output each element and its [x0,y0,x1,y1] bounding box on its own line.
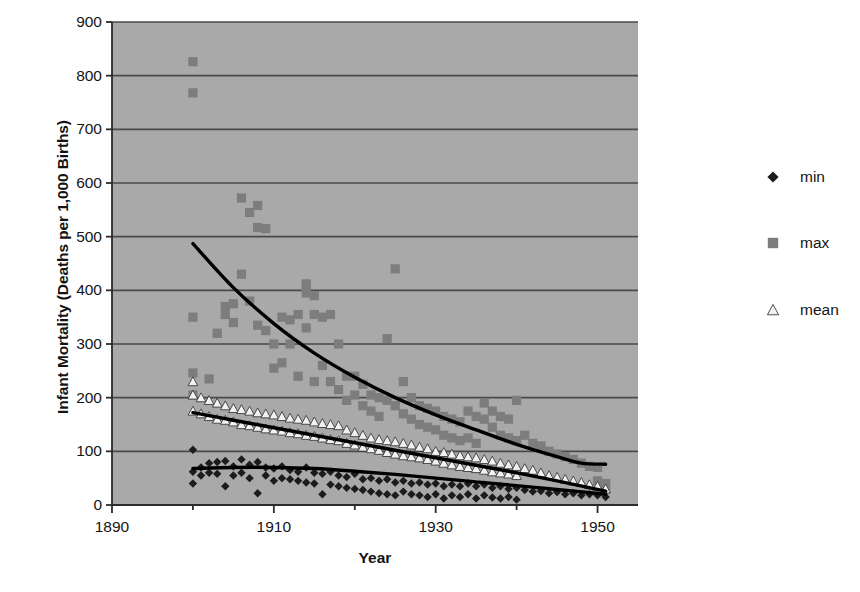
data-point-max [334,339,343,348]
data-point-max [496,412,505,421]
data-point-max [269,364,278,373]
data-point-max [285,339,294,348]
data-point-max [253,223,262,232]
x-tick-label: 1950 [553,519,643,535]
data-point-max [326,310,335,319]
data-point-max [488,406,497,415]
data-point-max [285,315,294,324]
data-point-max [205,374,214,383]
data-point-max [439,431,448,440]
data-point-max [188,88,197,97]
data-point-max [245,208,254,217]
data-point-max [528,439,537,448]
data-point-max [480,398,489,407]
data-point-max [294,310,303,319]
data-point-max [463,433,472,442]
data-point-max [237,193,246,202]
infant-mortality-scatter-chart: Infant Mortality (Deaths per 1,000 Birth… [0,0,860,592]
data-point-max [261,326,270,335]
data-point-max [229,318,238,327]
data-point-max [229,299,238,308]
data-point-max [480,415,489,424]
data-point-max [374,412,383,421]
data-point-max [277,313,286,322]
data-point-max [221,302,230,311]
data-point-max [463,406,472,415]
data-point-max [366,390,375,399]
legend-label-mean: mean [800,302,839,318]
data-point-max [342,396,351,405]
plot-area [0,0,860,592]
data-point-max [318,313,327,322]
data-point-max [366,406,375,415]
data-point-max [221,310,230,319]
data-point-max [472,439,481,448]
data-point-max [253,321,262,330]
legend-label-min: min [800,169,825,185]
legend-label-max: max [800,235,829,251]
data-point-max [472,412,481,421]
data-point-max [383,334,392,343]
data-point-max [358,401,367,410]
data-point-max [423,423,432,432]
data-point-max [399,409,408,418]
data-point-max [302,323,311,332]
y-tick-label: 0 [50,497,102,513]
x-tick-label: 1890 [67,519,157,535]
data-point-max [310,377,319,386]
data-point-max [447,433,456,442]
data-point-max [277,358,286,367]
data-point-max [374,393,383,402]
data-point-max [350,390,359,399]
data-point-max [269,339,278,348]
data-point-max [415,420,424,429]
data-point-max [237,270,246,279]
y-tick-label: 400 [50,282,102,298]
data-point-max [391,401,400,410]
data-point-max [253,201,262,210]
y-tick-label: 800 [50,68,102,84]
data-point-max [399,377,408,386]
data-point-max [213,329,222,338]
data-point-max [431,425,440,434]
data-point-max [310,310,319,319]
data-point-max [391,264,400,273]
data-point-max [302,288,311,297]
data-point-max [520,431,529,440]
data-point-max [488,423,497,432]
y-tick-label: 300 [50,336,102,352]
data-point-max [407,415,416,424]
data-point-max [294,372,303,381]
data-point-max [504,415,513,424]
y-tick-label: 700 [50,121,102,137]
y-tick-label: 100 [50,443,102,459]
data-point-max [334,385,343,394]
data-point-max [455,436,464,445]
data-point-max [261,224,270,233]
y-tick-label: 200 [50,390,102,406]
x-tick-label: 1930 [391,519,481,535]
y-tick-label: 900 [50,14,102,30]
data-point-max [188,57,197,66]
data-point-max [310,291,319,300]
data-point-max [512,396,521,405]
data-point-max [188,313,197,322]
data-point-max [407,393,416,402]
y-tick-label: 500 [50,229,102,245]
data-point-max [536,441,545,450]
data-point-max [326,377,335,386]
y-tick-label: 600 [50,175,102,191]
x-tick-label: 1910 [229,519,319,535]
